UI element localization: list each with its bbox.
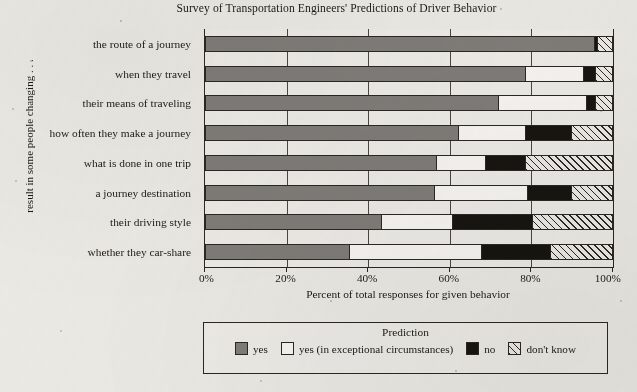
x-tick-label: 0% bbox=[199, 272, 214, 284]
x-tick-label: 20% bbox=[275, 272, 296, 284]
bar-segment-yes-in-exceptional-circumstances bbox=[436, 155, 485, 171]
legend-item[interactable]: don't know bbox=[508, 342, 576, 355]
legend-swatch-yesexc-icon bbox=[281, 342, 294, 355]
scan-speck bbox=[620, 300, 622, 302]
legend-label: yes bbox=[253, 343, 268, 355]
stacked-bar bbox=[205, 214, 613, 230]
y-category-label: when they travel bbox=[0, 59, 198, 89]
plot-area bbox=[204, 29, 614, 268]
y-axis-category-labels: the route of a journeywhen they travelth… bbox=[0, 29, 198, 267]
bar-row bbox=[205, 178, 613, 208]
bar-segment-yes bbox=[205, 95, 498, 111]
bar-segment-don-t-know bbox=[597, 36, 613, 52]
stacked-bar bbox=[205, 36, 613, 52]
bar-row bbox=[205, 59, 613, 89]
bar-segment-yes-in-exceptional-circumstances bbox=[349, 244, 481, 260]
x-tick-label: 60% bbox=[439, 272, 460, 284]
y-category-label: the route of a journey bbox=[0, 29, 198, 59]
bar-segment-no bbox=[481, 244, 550, 260]
bar-segment-no bbox=[525, 125, 571, 141]
bar-row bbox=[205, 89, 613, 119]
bar-segment-yes bbox=[205, 244, 349, 260]
stacked-bar bbox=[205, 155, 613, 171]
legend-label: yes (in exceptional circumstances) bbox=[299, 343, 453, 355]
x-tick-label: 100% bbox=[595, 272, 621, 284]
legend-title: Prediction bbox=[204, 326, 607, 338]
bar-segment-don-t-know bbox=[525, 155, 613, 171]
bar-segment-yes-in-exceptional-circumstances bbox=[498, 95, 586, 111]
stacked-bar bbox=[205, 244, 613, 260]
bar-row bbox=[205, 118, 613, 148]
legend-items: yesyes (in exceptional circumstances)nod… bbox=[204, 342, 607, 355]
legend: Prediction yesyes (in exceptional circum… bbox=[203, 322, 608, 374]
legend-label: no bbox=[484, 343, 495, 355]
stacked-bar bbox=[205, 125, 613, 141]
chart-title: Survey of Transportation Engineers' Pred… bbox=[0, 2, 637, 15]
bar-segment-no bbox=[527, 185, 571, 201]
bar-segment-no bbox=[485, 155, 525, 171]
y-category-label: their means of traveling bbox=[0, 89, 198, 119]
bar-segment-yes bbox=[205, 155, 436, 171]
bar-segment-yes-in-exceptional-circumstances bbox=[381, 214, 452, 230]
y-category-label: what is done in one trip bbox=[0, 148, 198, 178]
bar-segment-no bbox=[586, 95, 595, 111]
bar-segment-yes bbox=[205, 36, 594, 52]
x-axis-ticks: 0%20%40%60%80%100% bbox=[204, 268, 612, 284]
scan-speck bbox=[120, 20, 122, 22]
bar-row bbox=[205, 148, 613, 178]
bar-segment-yes bbox=[205, 125, 458, 141]
bar-segment-yes bbox=[205, 214, 381, 230]
bar-segment-no bbox=[583, 66, 595, 82]
stacked-bar bbox=[205, 95, 613, 111]
legend-item[interactable]: no bbox=[466, 342, 495, 355]
legend-swatch-yes-icon bbox=[235, 342, 248, 355]
legend-swatch-dontknow-icon bbox=[508, 342, 521, 355]
bar-segment-yes-in-exceptional-circumstances bbox=[458, 125, 525, 141]
bar-segment-don-t-know bbox=[571, 125, 613, 141]
bar-segment-no bbox=[452, 214, 532, 230]
legend-item[interactable]: yes bbox=[235, 342, 268, 355]
scan-speck bbox=[330, 300, 332, 302]
scan-speck bbox=[260, 380, 262, 382]
bar-segment-yes-in-exceptional-circumstances bbox=[525, 66, 583, 82]
bar-row bbox=[205, 29, 613, 59]
bar-segment-yes bbox=[205, 66, 525, 82]
bar-row bbox=[205, 237, 613, 267]
stacked-bar bbox=[205, 185, 613, 201]
y-category-label: whether they car-share bbox=[0, 237, 198, 267]
bar-segment-don-t-know bbox=[595, 95, 613, 111]
y-category-label: their driving style bbox=[0, 208, 198, 238]
y-category-label: how often they make a journey bbox=[0, 118, 198, 148]
y-category-label: a journey destination bbox=[0, 178, 198, 208]
bar-segment-don-t-know bbox=[595, 66, 613, 82]
legend-label: don't know bbox=[526, 343, 576, 355]
bar-rows bbox=[205, 29, 613, 267]
stacked-bar bbox=[205, 66, 613, 82]
x-axis-title: Percent of total responses for given beh… bbox=[204, 288, 612, 300]
bar-segment-don-t-know bbox=[550, 244, 613, 260]
bar-segment-don-t-know bbox=[532, 214, 613, 230]
bar-row bbox=[205, 208, 613, 238]
bar-segment-yes-in-exceptional-circumstances bbox=[434, 185, 527, 201]
bar-segment-yes bbox=[205, 185, 434, 201]
x-tick-label: 80% bbox=[520, 272, 541, 284]
legend-swatch-no-icon bbox=[466, 342, 479, 355]
x-tick-label: 40% bbox=[357, 272, 378, 284]
bar-segment-don-t-know bbox=[571, 185, 613, 201]
scan-speck bbox=[60, 330, 62, 332]
legend-item[interactable]: yes (in exceptional circumstances) bbox=[281, 342, 453, 355]
